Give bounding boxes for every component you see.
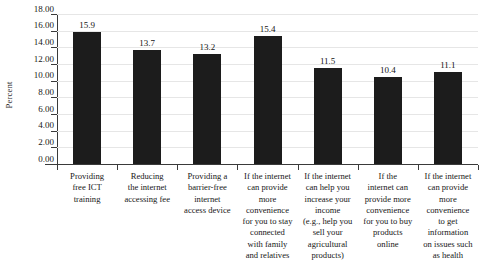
bar-chart-figure: Percent 0.002.004.006.008.0010.0012.0014… (0, 0, 488, 275)
x-axis-tick-mark (358, 165, 359, 170)
x-axis-label-line: convenience (358, 205, 418, 216)
x-axis-label-line: training (57, 194, 117, 205)
x-axis-label-line: and relatives (237, 250, 297, 261)
y-axis-tick-mark (51, 47, 57, 48)
x-axis-label-line: sell your (298, 227, 358, 238)
x-axis-label-line: increase your (298, 194, 358, 205)
bar (133, 50, 161, 164)
x-axis-label-line: access device (177, 205, 237, 216)
x-axis-category-label: If the internetcan providemoreconvenienc… (418, 171, 478, 261)
y-axis-tick-mark (51, 31, 57, 32)
x-axis-label-line: connected (237, 227, 297, 238)
x-axis-category-label: Providingfree ICTtraining (57, 171, 117, 205)
y-axis-tick-label: 14.00 (14, 38, 54, 47)
bar (193, 54, 221, 164)
x-axis-label-line: can provide (418, 182, 478, 193)
bar-value-label: 15.4 (238, 24, 298, 34)
y-axis-tick-labels: 0.002.004.006.008.0010.0012.0014.0016.00… (14, 9, 54, 165)
bar (254, 36, 282, 164)
x-axis-label-line: (e.g., help you (298, 216, 358, 227)
y-axis-tick-label: 4.00 (14, 121, 54, 130)
x-axis-tick-mark (117, 165, 118, 170)
x-axis-label-line: on issues such (418, 239, 478, 250)
x-axis-label-line: the internet (117, 182, 177, 193)
y-axis-tick-label: 10.00 (14, 71, 54, 80)
x-axis-label-line: information (418, 227, 478, 238)
x-axis-label-line: as health (418, 250, 478, 261)
y-axis-tick-label: 8.00 (14, 88, 54, 97)
x-axis-label-line: provide more (358, 194, 418, 205)
x-axis-label-line: products (358, 227, 418, 238)
bar-value-label: 11.5 (298, 56, 358, 66)
bar (374, 77, 402, 164)
x-axis-label-line: more (237, 194, 297, 205)
x-axis-tick-mark (237, 165, 238, 170)
y-axis-tick-label: 0.00 (14, 155, 54, 164)
x-axis-label-line: products) (298, 250, 358, 261)
x-axis-label-line: convenience (237, 205, 297, 216)
x-axis-label-line: agricultural (298, 239, 358, 250)
y-axis-tick-label: 12.00 (14, 55, 54, 64)
x-axis-tick-mark (478, 165, 479, 170)
x-axis-tick-mark (57, 165, 58, 170)
x-axis-label-line: income (298, 205, 358, 216)
x-axis-category-labels: Providingfree ICTtrainingReducingthe int… (57, 171, 478, 271)
x-axis-label-line: If the internet (237, 171, 297, 182)
y-axis-tick-label: 18.00 (14, 5, 54, 14)
x-axis-tick-mark (298, 165, 299, 170)
y-axis-tick-mark (51, 131, 57, 132)
x-axis-tick-mark (418, 165, 419, 170)
x-axis-label-line: If the internet (418, 171, 478, 182)
y-axis-title-label: Percent (4, 82, 14, 109)
x-axis-label-line: for you to buy (358, 216, 418, 227)
x-axis-label-line: can help you (298, 182, 358, 193)
bar (434, 72, 462, 165)
x-axis-label-line: for you to stay (237, 216, 297, 227)
x-axis-category-label: Providing abarrier-freeinternetaccess de… (177, 171, 237, 216)
y-axis-tick-mark (51, 14, 57, 15)
bar-value-label: 10.4 (358, 65, 418, 75)
y-axis-tick-label: 2.00 (14, 138, 54, 147)
x-axis-label-line: Providing (57, 171, 117, 182)
bar (73, 32, 101, 165)
gridline (57, 14, 478, 15)
bar-value-label: 13.7 (117, 38, 177, 48)
y-axis-tick-mark (51, 114, 57, 115)
y-axis-tick-mark (51, 81, 57, 82)
bar-value-label: 15.9 (57, 20, 117, 30)
bar-value-label: 13.2 (177, 42, 237, 52)
plot-area: 15.913.713.215.411.510.411.1 (57, 14, 478, 164)
x-axis-label-line: can provide (237, 182, 297, 193)
x-axis-label-line: Reducing (117, 171, 177, 182)
x-axis-category-label: If theinternet canprovide moreconvenienc… (358, 171, 418, 250)
x-axis-category-label: If the internetcan providemoreconvenienc… (237, 171, 297, 261)
x-axis-label-line: accessing fee (117, 194, 177, 205)
x-axis-label-line: with family (237, 239, 297, 250)
bar (314, 68, 342, 164)
x-axis-label-line: online (358, 239, 418, 250)
y-axis-tick-mark (51, 64, 57, 65)
x-axis-tick-mark (177, 165, 178, 170)
x-axis-label-line: internet (177, 194, 237, 205)
x-axis-label-line: Providing a (177, 171, 237, 182)
y-axis-tick-label: 6.00 (14, 105, 54, 114)
x-axis-label-line: more (418, 194, 478, 205)
x-axis-label-line: to get (418, 216, 478, 227)
y-axis-tick-label: 16.00 (14, 21, 54, 30)
x-axis-label-line: convenience (418, 205, 478, 216)
x-axis-label-line: If the internet (298, 171, 358, 182)
y-axis-tick-mark (51, 147, 57, 148)
bar-value-label: 11.1 (418, 60, 478, 70)
x-axis-label-line: If the (358, 171, 418, 182)
x-axis-label-line: barrier-free (177, 182, 237, 193)
x-axis-category-label: If the internetcan help youincrease your… (298, 171, 358, 261)
x-axis-category-label: Reducingthe internetaccessing fee (117, 171, 177, 205)
x-axis-label-line: free ICT (57, 182, 117, 193)
x-axis-label-line: internet can (358, 182, 418, 193)
y-axis-tick-mark (51, 97, 57, 98)
x-axis-line (45, 164, 478, 165)
